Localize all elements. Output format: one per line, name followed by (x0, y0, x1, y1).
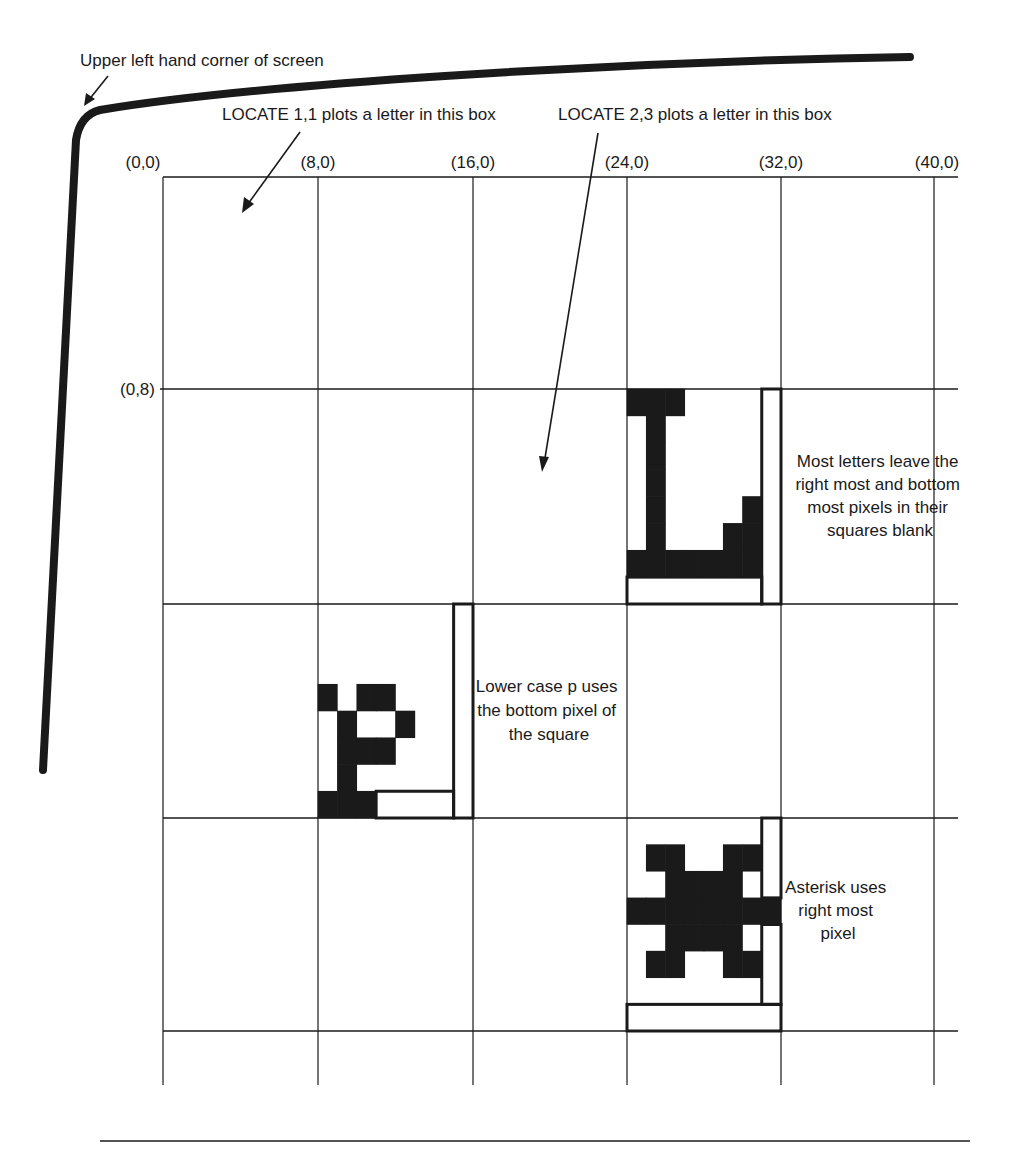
filled-pixel (742, 844, 762, 871)
blank-pixel-outline (627, 577, 762, 604)
locate-2-3-label: LOCATE 2,3 plots a letter in this box (558, 105, 832, 124)
top-coordinate-label: (0,0) (126, 153, 161, 172)
locate-2-3-arrow (539, 133, 598, 472)
filled-pixel (665, 844, 685, 871)
most-letters-note-line: Most letters leave the (797, 452, 959, 471)
filled-pixel (684, 924, 704, 951)
filled-pixel (646, 844, 666, 871)
filled-pixel (723, 550, 743, 577)
filled-pixel (704, 924, 724, 951)
filled-pixel (627, 550, 647, 577)
filled-pixel (376, 684, 396, 711)
locate-1-1-label: LOCATE 1,1 plots a letter in this box (222, 105, 496, 124)
filled-pixel (376, 737, 396, 764)
top-coordinate-label: (8,0) (301, 153, 336, 172)
character-cell-diagram: Upper left hand corner of screen LOCATE … (0, 0, 1011, 1158)
filled-pixel (646, 523, 666, 550)
character-grid (160, 177, 958, 1085)
glyph-lowercase-p (318, 604, 473, 818)
blank-pixel-outline (762, 389, 781, 604)
filled-pixel (723, 844, 743, 871)
most-letters-note-line: squares blank (827, 521, 933, 540)
top-coordinate-label: (24,0) (605, 153, 649, 172)
filled-pixel (337, 791, 357, 818)
most-letters-note: Most letters leave the right most and bo… (795, 452, 964, 540)
filled-pixel (646, 389, 666, 416)
filled-pixel (742, 951, 762, 978)
glyph-asterisk (627, 818, 782, 1031)
filled-pixel (337, 764, 357, 791)
filled-pixel (723, 924, 743, 951)
filled-pixel (627, 898, 647, 925)
blank-pixel-outline (376, 791, 454, 818)
lower-p-note: Lower case p uses the bottom pixel of th… (476, 677, 622, 744)
filled-pixel (723, 898, 743, 925)
filled-pixel (684, 550, 704, 577)
filled-pixel (761, 898, 781, 925)
top-coordinate-label: (40,0) (915, 153, 959, 172)
blank-pixel-outline (454, 604, 473, 818)
lower-p-note-line: the square (509, 725, 589, 744)
blank-pixel-outline (762, 925, 781, 1005)
filled-pixel (742, 496, 762, 523)
filled-pixel (318, 791, 338, 818)
filled-pixel (646, 469, 666, 496)
filled-pixel (684, 898, 704, 925)
filled-pixel (627, 389, 647, 416)
lower-p-note-line: Lower case p uses (476, 677, 618, 696)
most-letters-note-line: right most and bottom (795, 475, 959, 494)
filled-pixel (704, 550, 724, 577)
screen-corner-arrow (84, 76, 108, 106)
filled-pixel (665, 389, 685, 416)
filled-pixel (742, 523, 762, 550)
filled-pixel (665, 550, 685, 577)
filled-pixel (646, 550, 666, 577)
asterisk-note-line: pixel (821, 924, 856, 943)
filled-pixel (318, 684, 338, 711)
filled-pixel (665, 951, 685, 978)
filled-pixel (723, 951, 743, 978)
top-coordinate-labels: (0,0)(8,0)(16,0)(24,0)(32,0)(40,0) (126, 153, 960, 172)
top-coordinate-label: (16,0) (451, 153, 495, 172)
asterisk-note-line: right most (798, 901, 873, 920)
filled-pixel (704, 871, 724, 898)
filled-pixel (665, 924, 685, 951)
filled-pixel (665, 871, 685, 898)
filled-pixel (356, 791, 376, 818)
filled-pixel (665, 898, 685, 925)
locate-1-1-arrow (242, 132, 300, 213)
filled-pixel (646, 442, 666, 469)
most-letters-note-line: most pixels in their (807, 498, 948, 517)
filled-pixel (356, 684, 376, 711)
filled-pixel (337, 737, 357, 764)
screen-corner-label: Upper left hand corner of screen (80, 51, 324, 70)
filled-pixel (646, 416, 666, 443)
glyph-letter-L (627, 389, 781, 604)
blank-pixel-outline (762, 818, 781, 898)
filled-pixel (356, 737, 376, 764)
filled-pixel (646, 496, 666, 523)
lower-p-note-line: the bottom pixel of (477, 701, 616, 720)
filled-pixel (646, 898, 666, 925)
filled-pixel (395, 711, 415, 738)
filled-pixel (646, 951, 666, 978)
filled-pixel (742, 898, 762, 925)
left-coordinate-label: (0,8) (120, 380, 155, 399)
filled-pixel (742, 550, 762, 577)
blank-pixel-outline (627, 1004, 781, 1031)
top-coordinate-label: (32,0) (759, 153, 803, 172)
filled-pixel (337, 711, 357, 738)
filled-pixel (684, 871, 704, 898)
filled-pixel (704, 898, 724, 925)
filled-pixel (723, 523, 743, 550)
filled-pixel (723, 871, 743, 898)
asterisk-note: Asterisk uses right most pixel (785, 878, 891, 943)
asterisk-note-line: Asterisk uses (785, 878, 886, 897)
